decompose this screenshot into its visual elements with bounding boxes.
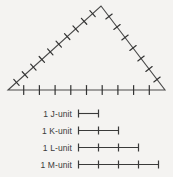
legend-label-j: 1 J-unit [0,109,77,119]
ruler-l-unit [77,142,140,153]
legend-label-l: 1 L-unit [0,143,77,153]
ruler-m-unit [77,159,160,170]
triangle-tick-marks [14,11,160,95]
triangle-shape [8,6,165,90]
legend-row: 1 M-unit [0,157,173,172]
legend-row: 1 L-unit [0,140,173,155]
ruler-k-unit [77,125,120,136]
legend-label-m: 1 M-unit [0,160,77,170]
geometry-figure: 1 J-unit 1 K-unit 1 L-unit 1 M-unit [0,0,173,177]
legend-row: 1 K-unit [0,123,173,138]
triangle-diagram [0,0,173,106]
legend-label-k: 1 K-unit [0,126,77,136]
ruler-j-unit [77,108,100,119]
unit-legend: 1 J-unit 1 K-unit 1 L-unit 1 M-unit [0,106,173,177]
legend-row: 1 J-unit [0,106,173,121]
